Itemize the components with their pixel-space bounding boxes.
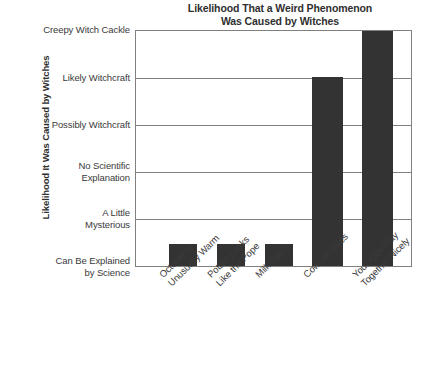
chart-title-line-2: Was Caused by Witches	[140, 15, 420, 28]
x-axis-tick-labels: October Is Unusually Warm Potato Looks L…	[135, 268, 412, 372]
bar-your-kids-play-together-nicely	[362, 30, 393, 266]
witch-likelihood-bar-chart: Likelihood That a Weird Phenomenon Was C…	[0, 0, 423, 372]
chart-title: Likelihood That a Weird Phenomenon Was C…	[140, 2, 420, 28]
y-tick-label-can-be-explained-by-science: Can Be Explained by Science	[5, 255, 135, 278]
y-tick-label-no-scientific-explanation: No Scientific Explanation	[5, 160, 135, 183]
y-axis-tick-labels: Creepy Witch Cackle Likely Witchcraft Po…	[0, 30, 135, 267]
y-tick-label-possibly-witchcraft: Possibly Witchcraft	[5, 119, 135, 131]
y-tick-label-likely-witchcraft: Likely Witchcraft	[5, 72, 135, 84]
chart-title-line-1: Likelihood That a Weird Phenomenon	[140, 2, 420, 15]
y-tick-label-creepy-witch-cackle: Creepy Witch Cackle	[5, 24, 135, 36]
y-tick-label-a-little-mysterious: A Little Mysterious	[5, 207, 135, 230]
